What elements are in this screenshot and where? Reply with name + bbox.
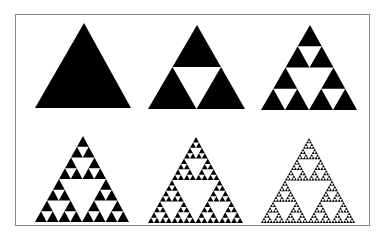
- sierpinski-triangle-iteration-4: [148, 137, 243, 223]
- sierpinski-panel-5: [261, 138, 355, 223]
- sierpinski-triangle-iteration-3: [35, 136, 129, 222]
- sierpinski-triangle-iteration-1: [148, 25, 245, 109]
- sierpinski-triangle-iteration-2: [261, 25, 357, 110]
- sierpinski-panel-0: [35, 23, 131, 108]
- sierpinski-panel-3: [35, 136, 129, 222]
- sierpinski-triangle-iteration-5: [261, 138, 355, 223]
- sierpinski-figure: [0, 0, 383, 238]
- sierpinski-triangle-iteration-0: [35, 23, 131, 108]
- sierpinski-panel-1: [148, 25, 245, 109]
- sierpinski-panel-2: [261, 25, 357, 110]
- sierpinski-panel-4: [148, 137, 243, 223]
